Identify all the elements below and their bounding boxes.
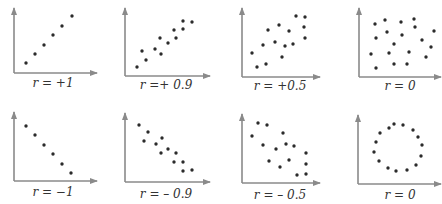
data-point: [266, 28, 269, 31]
data-point: [24, 124, 27, 127]
data-point: [394, 169, 397, 172]
data-point: [420, 143, 423, 146]
data-point: [304, 162, 307, 165]
data-point: [369, 52, 372, 55]
data-point: [414, 163, 417, 166]
data-point: [264, 62, 267, 65]
scatter-panel: r = 0: [358, 115, 441, 202]
data-point: [401, 123, 404, 126]
data-point: [281, 131, 284, 134]
data-point: [277, 23, 280, 26]
data-point: [166, 41, 169, 44]
data-point: [405, 62, 408, 65]
data-point: [399, 20, 402, 23]
data-point: [181, 19, 184, 22]
data-point: [407, 50, 410, 53]
data-point: [304, 172, 307, 175]
data-point: [304, 151, 307, 154]
data-point: [292, 144, 295, 147]
data-point: [377, 159, 380, 162]
data-point: [284, 142, 287, 145]
data-point: [392, 42, 395, 45]
data-point: [137, 123, 140, 126]
data-point: [60, 162, 63, 165]
scatter-panel: r = – 0.5: [242, 114, 320, 202]
data-point: [287, 29, 290, 32]
data-point: [400, 33, 403, 36]
data-point: [267, 159, 270, 162]
data-point: [256, 121, 259, 124]
data-point: [273, 40, 276, 43]
data-point: [51, 152, 54, 155]
data-point: [190, 20, 193, 23]
data-point: [405, 168, 408, 171]
data-point: [33, 52, 36, 55]
data-point: [159, 52, 162, 55]
data-point: [420, 38, 423, 41]
data-point: [411, 128, 414, 131]
data-point: [387, 126, 390, 129]
correlation-label: r = +0.5: [254, 79, 307, 93]
correlation-label: r = – 0.5: [254, 188, 306, 202]
data-point: [373, 22, 376, 25]
data-point: [383, 18, 386, 21]
data-point: [250, 134, 253, 137]
data-point: [374, 66, 377, 69]
scatter-panel: r = +0.5: [242, 8, 320, 93]
data-point: [159, 151, 162, 154]
data-point: [166, 147, 169, 150]
data-point: [413, 25, 416, 28]
data-point: [135, 65, 138, 68]
data-point: [374, 140, 377, 143]
data-point: [172, 160, 175, 163]
data-point: [24, 61, 27, 64]
data-point: [265, 123, 268, 126]
data-point: [42, 143, 45, 146]
data-point: [392, 62, 395, 65]
scatter-panel: r = +1: [14, 8, 97, 90]
data-point: [261, 143, 264, 146]
data-point: [274, 147, 277, 150]
correlation-label: r = −1: [32, 185, 73, 199]
scatter-panel: r = −1: [14, 112, 97, 199]
data-point: [294, 14, 297, 17]
data-point: [33, 133, 36, 136]
correlation-label: r = – 0.9: [140, 187, 193, 201]
data-point: [429, 45, 432, 48]
data-point: [386, 166, 389, 169]
data-point: [291, 42, 294, 45]
data-point: [146, 130, 149, 133]
data-point: [51, 33, 54, 36]
data-point: [181, 160, 184, 163]
data-point: [69, 171, 72, 174]
data-point: [419, 154, 422, 157]
correlation-label: r =+ 0.9: [140, 78, 193, 92]
scatter-panel: r =+ 0.9: [125, 8, 210, 92]
data-point: [190, 168, 193, 171]
data-point: [283, 44, 286, 47]
data-point: [302, 25, 305, 28]
data-point: [432, 29, 435, 32]
data-point: [385, 30, 388, 33]
data-point: [255, 65, 258, 68]
data-point: [261, 43, 264, 46]
data-point: [374, 36, 377, 39]
data-point: [153, 47, 156, 50]
data-point: [70, 14, 73, 17]
data-point: [42, 43, 45, 46]
data-point: [158, 36, 161, 39]
data-point: [303, 36, 306, 39]
data-point: [174, 36, 177, 39]
data-point: [250, 51, 253, 54]
data-point: [174, 151, 177, 154]
data-point: [181, 27, 184, 30]
data-point: [181, 169, 184, 172]
data-point: [278, 165, 281, 168]
data-point: [416, 135, 419, 138]
data-point: [142, 139, 145, 142]
data-point: [372, 150, 375, 153]
data-point: [303, 15, 306, 18]
data-point: [287, 158, 290, 161]
data-point: [140, 49, 143, 52]
data-point: [160, 136, 163, 139]
